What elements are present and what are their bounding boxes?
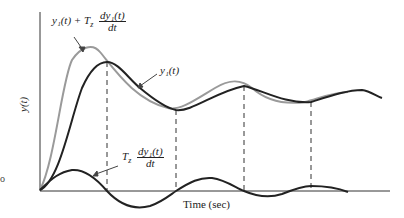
x-axis-label: Time (sec) xyxy=(183,198,230,210)
lead-response-curve xyxy=(40,47,348,190)
sum-label-subscript: z xyxy=(90,20,93,29)
derivative-label: Tz dy₁(t) dt xyxy=(122,146,164,169)
derivative-fraction: dy₁(t) dt xyxy=(99,10,126,33)
y-axis-label: y(t) xyxy=(17,97,29,112)
derivative-fraction-2: dy₁(t) dt xyxy=(137,146,164,169)
tz-subscript: z xyxy=(128,156,131,165)
fraction-denominator-2: dt xyxy=(146,158,155,169)
sum-label-text: y₁(t) + T xyxy=(52,14,90,26)
stray-mark: o xyxy=(0,173,5,184)
y1-response-curve xyxy=(40,62,382,190)
fraction-denominator: dt xyxy=(108,22,117,33)
extrema-markers xyxy=(107,62,311,191)
lead-response-label: y₁(t) + Tz dy₁(t) dt xyxy=(52,10,126,33)
y1-label: y₁(t) xyxy=(160,64,179,76)
